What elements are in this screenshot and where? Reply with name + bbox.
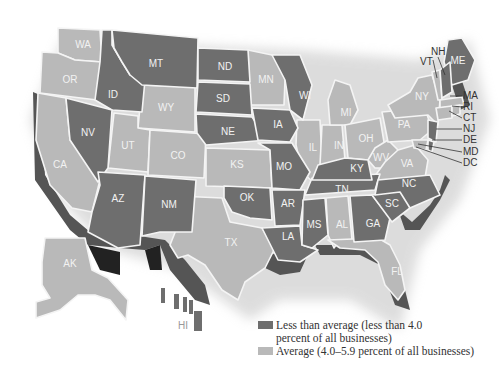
label-az: AZ xyxy=(112,193,125,204)
legend-swatch-light xyxy=(258,347,273,355)
label-sd: SD xyxy=(216,93,230,104)
label-md: MD xyxy=(463,146,479,157)
state-ct xyxy=(436,106,452,120)
label-al: AL xyxy=(336,219,349,230)
label-vt: VT xyxy=(420,56,433,67)
label-me: ME xyxy=(451,55,466,66)
label-dc: DC xyxy=(463,157,477,168)
label-oh: OH xyxy=(359,133,374,144)
label-ia: IA xyxy=(273,119,283,130)
label-ks: KS xyxy=(230,159,244,170)
legend-swatch-dark xyxy=(258,321,273,329)
label-ms: MS xyxy=(307,219,322,230)
label-hi: HI xyxy=(178,320,188,331)
label-mi: MI xyxy=(340,107,351,118)
label-mo: MO xyxy=(276,161,292,172)
label-ut: UT xyxy=(121,140,134,151)
legend-item-less-than-average: Less than average (less than 4.0 percent… xyxy=(258,319,474,345)
label-ny: NY xyxy=(415,91,429,102)
label-co: CO xyxy=(171,150,186,161)
label-ky: KY xyxy=(350,163,364,174)
state-nj xyxy=(428,120,438,142)
label-ok: OK xyxy=(240,192,255,203)
label-nh: NH xyxy=(431,46,445,57)
label-nd: ND xyxy=(218,61,232,72)
label-sc: SC xyxy=(385,198,399,209)
label-wy: WY xyxy=(158,102,174,113)
us-map: WA OR CA ID NV MT WY UT CO AZ NM ND SD N… xyxy=(0,0,499,365)
label-ma: MA xyxy=(463,90,478,101)
label-wi: WI xyxy=(299,90,311,101)
label-mn: MN xyxy=(258,74,274,85)
map-legend: Less than average (less than 4.0 percent… xyxy=(258,319,474,358)
label-ne: NE xyxy=(221,126,235,137)
label-ga: GA xyxy=(366,218,381,229)
label-wv: WV xyxy=(373,152,389,163)
label-de: DE xyxy=(463,134,477,145)
label-or: OR xyxy=(63,74,78,85)
label-ri: RI xyxy=(463,101,473,112)
label-nv: NV xyxy=(81,127,95,138)
legend-label: Average (4.0–5.9 percent of all business… xyxy=(276,345,474,358)
label-tx: TX xyxy=(225,237,238,248)
label-ct: CT xyxy=(463,112,476,123)
label-va: VA xyxy=(401,158,414,169)
label-la: LA xyxy=(282,231,295,242)
label-nc: NC xyxy=(402,178,416,189)
label-nm: NM xyxy=(161,199,177,210)
legend-label-cont: percent of all businesses) xyxy=(276,332,422,345)
label-fl: FL xyxy=(391,266,403,277)
label-nj: NJ xyxy=(463,123,475,134)
label-ak: AK xyxy=(63,258,77,269)
label-il: IL xyxy=(309,142,318,153)
label-id: ID xyxy=(108,89,118,100)
legend-label: Less than average (less than 4.0 xyxy=(276,319,422,332)
label-ar: AR xyxy=(281,198,295,209)
label-mt: MT xyxy=(149,58,163,69)
label-tn: TN xyxy=(335,184,348,195)
label-in: IN xyxy=(334,140,344,151)
label-pa: PA xyxy=(398,119,411,130)
legend-item-average: Average (4.0–5.9 percent of all business… xyxy=(258,345,474,358)
label-ca: CA xyxy=(53,159,67,170)
label-wa: WA xyxy=(75,39,91,50)
